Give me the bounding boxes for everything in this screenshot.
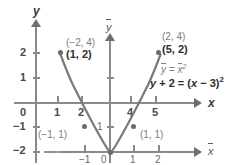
point-marker-vertex (108, 150, 113, 155)
point-label-translated-2-4: (2, 4) (162, 31, 185, 42)
equation-original-text: y + 2 = (x − 3)2 (150, 77, 224, 89)
point-label-translated-neg2-4: (−2, 4) (66, 37, 95, 48)
point-marker-4-neg1 (131, 124, 136, 129)
point-label-main-5-2: (5, 2) (162, 44, 188, 55)
equation-original: y + 2 = (x − 3)2 (150, 74, 224, 89)
parabola-translation-figure: x y 2 1 0 −1 −2 1 2 4 5 y x 1 −1 0 1 2 (0, 0, 234, 165)
point-marker-1-2 (58, 50, 63, 55)
point-label-translated-1-1: (1, 1) (140, 129, 163, 140)
point-label-translated-neg1-1: (−1, 1) (38, 129, 67, 140)
point-marker-2-neg1 (82, 124, 87, 129)
point-marker-5-2 (156, 50, 161, 55)
point-label-main-1-2: (1, 2) (66, 49, 92, 60)
